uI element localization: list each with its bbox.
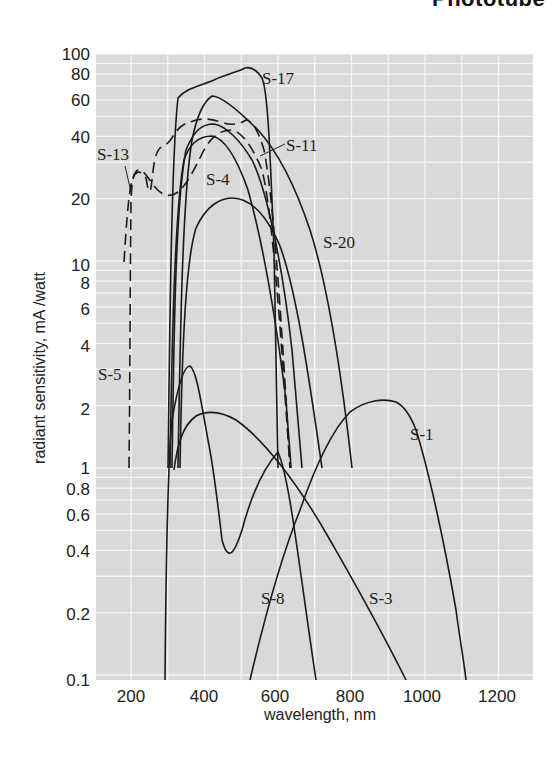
x-tick-label: 400 — [190, 687, 218, 706]
x-axis-ticks: 20040060080010001200 — [117, 687, 516, 706]
y-tick-label: 0.1 — [66, 671, 90, 690]
y-axis-ticks: 1008060402010864210.80.60.40.20.1 — [62, 45, 90, 690]
y-tick-label: 0.6 — [66, 506, 90, 525]
y-tick-label: 60 — [71, 91, 90, 110]
label-s4: S-4 — [206, 170, 230, 189]
x-tick-label: 1000 — [403, 687, 441, 706]
x-tick-label: 200 — [117, 687, 145, 706]
label-s1: S-1 — [410, 425, 434, 444]
y-tick-label: 100 — [62, 45, 90, 64]
y-tick-label: 0.2 — [66, 605, 90, 624]
y-tick-label: 1 — [81, 459, 90, 478]
y-tick-label: 2 — [81, 400, 90, 419]
y-tick-label: 40 — [71, 128, 90, 147]
sensitivity-chart: S-17 S-11 S-13 S-4 S-20 S-5 S-1 S-8 S-3 … — [0, 0, 558, 768]
label-s11: S-11 — [286, 136, 318, 155]
y-tick-label: 0.8 — [66, 480, 90, 499]
label-s5: S-5 — [98, 365, 122, 384]
x-tick-label: 800 — [336, 687, 364, 706]
y-tick-label: 4 — [81, 337, 90, 356]
label-s13: S-13 — [97, 145, 129, 164]
label-s3: S-3 — [369, 589, 393, 608]
x-axis-title: wavelength, nm — [263, 706, 376, 723]
y-tick-label: 80 — [71, 65, 90, 84]
y-tick-label: 20 — [71, 190, 90, 209]
x-tick-label: 1200 — [478, 687, 516, 706]
label-s17: S-17 — [262, 69, 295, 88]
y-tick-label: 6 — [81, 300, 90, 319]
x-tick-label: 600 — [261, 687, 289, 706]
label-s20: S-20 — [323, 233, 355, 252]
y-tick-label: 0.4 — [66, 542, 90, 561]
y-axis-title: radiant sensitivity, mA /watt — [31, 272, 48, 464]
y-tick-label: 8 — [81, 274, 90, 293]
label-s8: S-8 — [261, 589, 285, 608]
y-tick-label: 10 — [71, 256, 90, 275]
